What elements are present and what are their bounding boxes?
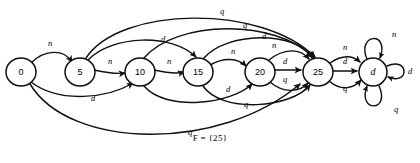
edge-label-10-20-d: d xyxy=(226,84,231,94)
edge-15-25-q xyxy=(203,85,310,105)
edge-d-self-q xyxy=(365,86,381,106)
edge-label-10-25-q: q xyxy=(243,20,248,30)
state-label-0: 0 xyxy=(18,67,23,77)
edge-15-25-d xyxy=(204,38,312,58)
state-label-25: 25 xyxy=(313,67,323,77)
edge-label-5-10-n: n xyxy=(108,56,112,66)
edge-label-20-25-d: d xyxy=(283,56,288,66)
edge-label-0-10-d: d xyxy=(91,93,96,103)
edge-10-15-n xyxy=(154,70,184,73)
state-node-25[interactable]: 25 xyxy=(303,58,333,86)
edge-d-self-n xyxy=(365,39,382,59)
state-node-0[interactable]: 0 xyxy=(6,58,36,86)
edge-label-d-self-d: d xyxy=(408,66,413,76)
edge-10-20-d xyxy=(144,84,252,102)
edge-20-25-q xyxy=(270,82,308,90)
edge-label-20-25-q: q xyxy=(283,74,288,84)
edge-label-15-20-n: n xyxy=(231,46,235,56)
state-node-5[interactable]: 5 xyxy=(65,58,95,86)
edge-label-10-15-n: n xyxy=(167,56,171,66)
edge-0-25-q xyxy=(30,84,300,134)
edge-5-15-d xyxy=(88,40,196,60)
fsm-diagram: 0 5 10 15 20 25 xyxy=(0,0,420,163)
diagram-caption: F = {25} xyxy=(0,133,420,143)
state-label-15: 15 xyxy=(193,67,203,77)
state-label-10: 10 xyxy=(135,67,145,77)
edge-label-5-25-q: q xyxy=(220,6,225,16)
edge-d-self-d xyxy=(387,64,404,79)
edge-label-d-self-q: q xyxy=(394,104,399,114)
edge-label-25-d-n: n xyxy=(343,42,347,52)
edge-label-20-25-n: n xyxy=(272,40,276,50)
edge-0-5-n xyxy=(31,52,72,63)
edge-label-0-5-n: n xyxy=(48,38,52,48)
state-node-dead[interactable]: d xyxy=(359,58,387,86)
state-node-10[interactable]: 10 xyxy=(125,58,155,86)
state-label-20: 20 xyxy=(255,67,265,77)
edge-20-25-n xyxy=(269,51,309,60)
state-node-15[interactable]: 15 xyxy=(183,58,213,86)
edge-15-20-n xyxy=(210,59,246,66)
edge-5-10-n xyxy=(94,70,125,73)
state-label-5: 5 xyxy=(77,67,82,77)
state-node-20[interactable]: 20 xyxy=(245,58,275,86)
edge-label-d-self-n: n xyxy=(392,29,396,39)
